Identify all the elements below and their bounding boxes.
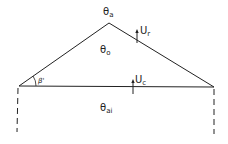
ceiling-u-value-label: Uc [135, 75, 146, 86]
indoor-temperature-label: θai [100, 103, 112, 114]
pitch-angle-label: β' [38, 76, 44, 86]
right-roof-slope [109, 23, 214, 87]
outdoor-temperature-label: θa [103, 7, 113, 18]
left-roof-slope [19, 23, 109, 86]
subscript: o [106, 49, 110, 57]
roof-u-value-label: Ur [140, 26, 150, 37]
angle-arc [33, 76, 36, 86]
subscript: r [147, 30, 150, 38]
ceiling-line [19, 86, 214, 87]
left-wall-dashed [17, 88, 18, 132]
subscript: c [142, 79, 146, 87]
roof-diagram [0, 0, 228, 144]
attic-temperature-label: θo [100, 45, 110, 56]
subscript: a [109, 11, 113, 19]
subscript: ai [106, 107, 112, 115]
